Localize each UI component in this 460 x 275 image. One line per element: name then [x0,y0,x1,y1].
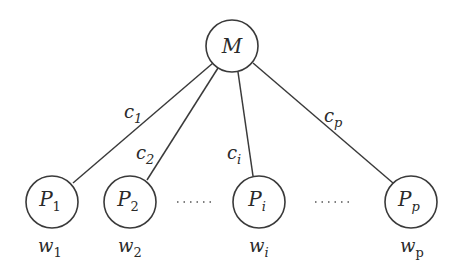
node-p2: P2 [104,176,156,228]
edge-label-c2: c2 [136,142,154,167]
edge-m-p2 [147,68,218,180]
edge-label-c1: c1 [124,101,142,126]
edges [73,63,393,183]
node-m: M [206,20,258,72]
tree-diagram: c1 c2 ci cp M P1 P2 Pi Pp w1 w2 wi wp [0,0,460,275]
node-pp: Pp [385,176,437,228]
weight-label-w2: w2 [118,235,142,260]
weight-labels: w1 w2 wi wp [38,235,424,260]
weight-label-wi: wi [249,235,269,260]
weight-label-w1: w1 [38,235,62,260]
node-m-label: M [221,34,243,58]
weight-label-wp: wp [400,235,424,260]
node-pi: Pi [233,176,285,228]
edge-m-p1 [73,63,213,183]
edge-m-pp [253,63,393,183]
edge-label-ci: ci [227,142,241,167]
node-p1: P1 [26,176,78,228]
